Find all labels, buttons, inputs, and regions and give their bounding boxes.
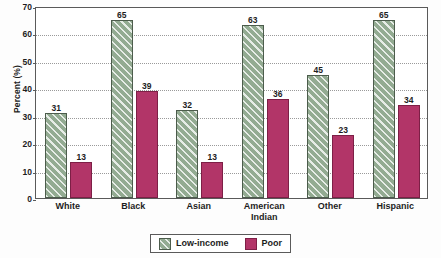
bar-value-label: 31	[39, 104, 73, 113]
legend-label: Low-income	[176, 239, 229, 248]
bar-value-label: 13	[64, 153, 98, 162]
y-tick-label: 60	[8, 30, 32, 39]
bar-poor-white	[70, 162, 92, 198]
bar-value-label: 34	[392, 96, 426, 105]
bar-value-label: 65	[367, 11, 401, 20]
bar-poor-other	[332, 135, 354, 198]
x-category-label: Asian	[166, 201, 232, 212]
legend-swatch-icon	[245, 238, 257, 250]
y-axis-tick-labels: 010203040506070	[8, 7, 32, 199]
y-tick-label: 10	[8, 167, 32, 176]
chart-figure: Percent (%) 010203040506070 311365393213…	[0, 0, 441, 258]
y-gridline	[36, 173, 427, 174]
y-tick-label: 30	[8, 112, 32, 121]
bar-value-label: 36	[261, 90, 295, 99]
y-tick-label: 50	[8, 58, 32, 67]
bar-poor-hispanic	[398, 105, 420, 198]
bar-poor-black	[136, 91, 158, 198]
y-axis-tick	[33, 35, 36, 36]
x-category-label: White	[35, 201, 101, 212]
bar-low-income-black	[111, 20, 133, 198]
bar-value-label: 23	[326, 126, 360, 135]
y-gridline	[36, 63, 427, 64]
y-tick-label: 40	[8, 85, 32, 94]
y-tick-label: 20	[8, 140, 32, 149]
y-gridline	[36, 90, 427, 91]
bar-low-income-hispanic	[373, 20, 395, 198]
y-tick-label: 0	[8, 195, 32, 204]
chart-legend: Low-incomePoor	[150, 234, 291, 253]
y-axis-tick	[33, 145, 36, 146]
legend-swatch-icon	[159, 238, 171, 250]
bar-value-label: 65	[105, 11, 139, 20]
bar-value-label: 45	[301, 66, 335, 75]
x-category-label: American Indian	[232, 201, 298, 222]
bar-poor-asian	[201, 162, 223, 198]
bar-value-label: 32	[170, 101, 204, 110]
plot-area: 311365393213633645236534	[35, 7, 428, 199]
legend-item-low-income[interactable]: Low-income	[159, 238, 229, 250]
y-axis-tick	[33, 63, 36, 64]
y-axis-tick	[33, 173, 36, 174]
bar-value-label: 13	[195, 153, 229, 162]
bar-poor-american-indian	[267, 99, 289, 198]
bar-low-income-other	[307, 75, 329, 198]
x-axis-category-labels: WhiteBlackAsianAmerican IndianOtherHispa…	[35, 201, 428, 231]
y-axis-tick	[33, 118, 36, 119]
legend-label: Poor	[262, 239, 283, 248]
bar-value-label: 63	[236, 16, 270, 25]
x-category-label: Hispanic	[363, 201, 429, 212]
y-gridline	[36, 145, 427, 146]
x-category-label: Other	[297, 201, 363, 212]
y-gridline	[36, 118, 427, 119]
bar-value-label: 39	[130, 82, 164, 91]
x-category-label: Black	[101, 201, 167, 212]
bar-low-income-american-indian	[242, 25, 264, 198]
y-gridline	[36, 35, 427, 36]
y-axis-tick	[33, 8, 36, 9]
y-tick-label: 70	[8, 3, 32, 12]
chart-title-cropped	[0, 0, 441, 6]
legend-item-poor[interactable]: Poor	[245, 238, 283, 250]
y-axis-tick	[33, 90, 36, 91]
